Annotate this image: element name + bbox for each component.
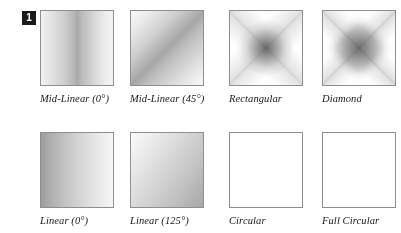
gradient-swatch-full-circular[interactable] [322, 132, 396, 208]
swatch-label-mid-linear-0: Mid-Linear (0°) [40, 93, 114, 104]
gradient-fill-linear-0 [41, 133, 113, 207]
gradient-swatch-linear-0[interactable] [40, 132, 114, 208]
swatch-cell-mid-linear-45[interactable]: Mid-Linear (45°) [130, 10, 204, 104]
swatch-label-circular: Circular [229, 215, 303, 226]
gradient-fill-linear-125 [131, 133, 203, 207]
swatch-label-diamond: Diamond [322, 93, 396, 104]
swatch-label-rectangular: Rectangular [229, 93, 303, 104]
swatch-cell-diamond[interactable]: Diamond [322, 10, 396, 104]
gradient-types-figure: 1 Mid-Linear (0°) Mid-Linear (45°) Recta… [0, 0, 401, 233]
gradient-fill-mid-linear-0 [41, 11, 113, 85]
swatch-row-bottom: Linear (0°) Linear (125°) Circular Full … [0, 132, 401, 233]
gradient-swatch-linear-125[interactable] [130, 132, 204, 208]
swatch-cell-mid-linear-0[interactable]: Mid-Linear (0°) [40, 10, 114, 104]
gradient-swatch-mid-linear-0[interactable] [40, 10, 114, 86]
gradient-fill-circular [230, 133, 302, 207]
swatch-cell-full-circular[interactable]: Full Circular [322, 132, 396, 226]
swatch-label-linear-0: Linear (0°) [40, 215, 114, 226]
swatch-label-full-circular: Full Circular [322, 215, 396, 226]
swatch-label-mid-linear-45: Mid-Linear (45°) [130, 93, 204, 104]
gradient-swatch-diamond[interactable] [322, 10, 396, 86]
gradient-overlay-diamond-arms [323, 11, 395, 85]
gradient-swatch-rectangular[interactable] [229, 10, 303, 86]
gradient-fill-mid-linear-45 [131, 11, 203, 85]
swatch-cell-linear-0[interactable]: Linear (0°) [40, 132, 114, 226]
gradient-overlay-rectangular-arms [230, 11, 302, 85]
swatch-cell-circular[interactable]: Circular [229, 132, 303, 226]
swatch-label-linear-125: Linear (125°) [130, 215, 204, 226]
gradient-swatch-circular[interactable] [229, 132, 303, 208]
gradient-fill-full-circular [323, 133, 395, 207]
swatch-cell-linear-125[interactable]: Linear (125°) [130, 132, 204, 226]
swatch-row-top: Mid-Linear (0°) Mid-Linear (45°) Rectang… [0, 10, 401, 116]
swatch-cell-rectangular[interactable]: Rectangular [229, 10, 303, 104]
gradient-swatch-mid-linear-45[interactable] [130, 10, 204, 86]
